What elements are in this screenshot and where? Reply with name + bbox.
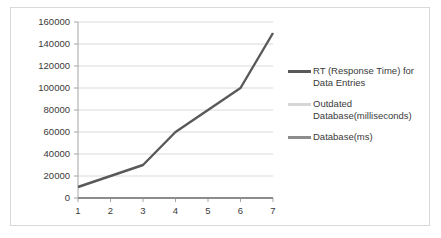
y-axis-tick-label: 0 [65, 192, 70, 203]
x-axis-tick-label: 1 [75, 205, 80, 216]
y-axis-tick-labels: 0200004000060000800001000001200001400001… [38, 16, 70, 203]
y-axis-tick-label: 160000 [38, 16, 70, 27]
chart-container: 0200004000060000800001000001200001400001… [10, 7, 430, 226]
y-axis-tick-label: 100000 [38, 82, 70, 93]
legend-item[interactable]: RT (Response Time) for Data Entries [288, 65, 430, 89]
legend-item-label: Database(ms) [313, 131, 373, 143]
data-series-group [78, 33, 273, 198]
x-axis-tick-label: 4 [173, 205, 178, 216]
gridlines-group [78, 22, 273, 198]
legend-line-swatch-icon [288, 136, 311, 139]
y-axis-tick-label: 40000 [44, 148, 70, 159]
legend-item-label: Outdated Database(milliseconds) [313, 98, 430, 122]
y-axis-tick-label: 140000 [38, 38, 70, 49]
x-axis-tick-label: 3 [140, 205, 145, 216]
x-axis-tick-label: 7 [270, 205, 275, 216]
y-axis-tick-label: 80000 [44, 104, 70, 115]
y-axis-tick-label: 60000 [44, 126, 70, 137]
x-axis-tick-label: 5 [205, 205, 210, 216]
y-axis-tick-marks [74, 22, 78, 198]
x-axis-tick-label: 2 [108, 205, 113, 216]
legend-line-swatch-icon [288, 70, 311, 73]
chart-legend: RT (Response Time) for Data Entries Outd… [288, 65, 430, 152]
legend-item[interactable]: Outdated Database(milliseconds) [288, 98, 430, 122]
x-axis-tick-labels: 1234567 [75, 205, 275, 216]
y-axis-tick-label: 120000 [38, 60, 70, 71]
x-axis-tick-label: 6 [238, 205, 243, 216]
y-axis-tick-label: 20000 [44, 170, 70, 181]
legend-item[interactable]: Database(ms) [288, 131, 430, 143]
legend-line-swatch-icon [288, 103, 311, 106]
legend-item-label: RT (Response Time) for Data Entries [313, 65, 430, 89]
